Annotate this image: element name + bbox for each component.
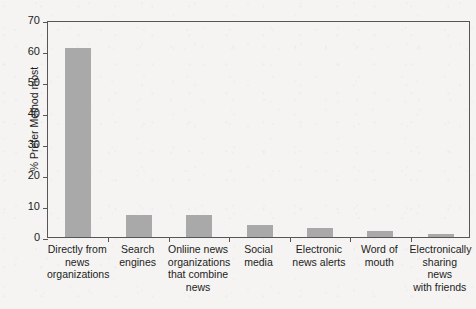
x-axis-label-line: media [244, 256, 273, 268]
x-axis-label-line: engines [119, 256, 156, 268]
x-axis-label-line: Electronically [410, 243, 472, 255]
y-axis-tick-label: 70 [18, 15, 40, 26]
x-axis-tick-label: Electronicnews alerts [289, 243, 349, 268]
y-axis-tick [43, 115, 48, 116]
x-axis-tick-label: Electronicallysharing newswith friends [410, 243, 470, 293]
x-axis-label-line: mouth [365, 256, 394, 268]
y-axis-tick-label: 40 [18, 108, 40, 119]
x-axis-label-line: Directly from [48, 243, 107, 255]
bar [247, 225, 273, 237]
x-axis-label-line: organizations [168, 256, 230, 268]
x-axis-tick [411, 237, 412, 242]
x-axis-label-line: news [65, 256, 90, 268]
y-axis-tick-label: 20 [18, 170, 40, 181]
y-axis-tick-labels: 010203040506070 [16, 0, 40, 309]
bar [367, 231, 393, 237]
y-axis-tick [43, 177, 48, 178]
x-axis-tick [108, 237, 109, 242]
x-axis-tick [229, 237, 230, 242]
x-axis-label-line: news [186, 281, 211, 293]
x-axis-tick-label: Socialmedia [228, 243, 288, 268]
y-axis-tick-label: 50 [18, 77, 40, 88]
y-axis-tick [43, 146, 48, 147]
plot-area [47, 21, 470, 238]
x-axis-label-line: that combine [168, 268, 228, 280]
bar [126, 215, 152, 237]
bar [186, 215, 212, 237]
x-axis-tick-label: Word ofmouth [349, 243, 409, 268]
y-axis-tick-label: 0 [18, 232, 40, 243]
x-axis-tick [169, 237, 170, 242]
bar [428, 234, 454, 237]
y-axis-tick-label: 10 [18, 201, 40, 212]
x-axis-label-line: Onliine news [168, 243, 228, 255]
x-axis-tick [290, 237, 291, 242]
y-axis-tick-label: 30 [18, 139, 40, 150]
x-axis-label-line: Search [121, 243, 154, 255]
x-axis-label-line: Word of [361, 243, 398, 255]
x-axis-tick-labels: Directly fromnewsorganizationsSearchengi… [47, 243, 470, 309]
x-axis-label-line: Electronic [296, 243, 342, 255]
bar [65, 48, 91, 237]
x-axis-tick-label: Directly fromnewsorganizations [47, 243, 107, 281]
x-axis-label-line: news alerts [292, 256, 345, 268]
x-axis-tick-label: Searchengines [107, 243, 167, 268]
bar-chart: % Prefer Method most 010203040506070 Dir… [0, 0, 476, 309]
x-axis-tick-label: Onliine newsorganizationsthat combinenew… [168, 243, 228, 293]
y-axis-tick [43, 53, 48, 54]
bar [307, 228, 333, 237]
y-axis-tick [43, 84, 48, 85]
x-axis-label-line: with friends [413, 281, 466, 293]
x-axis-label-line: organizations [47, 268, 109, 280]
x-axis-label-line: sharing news [423, 256, 457, 281]
x-axis-label-line: Social [244, 243, 273, 255]
y-axis-tick [43, 22, 48, 23]
y-axis-tick-label: 60 [18, 46, 40, 57]
y-axis-tick [43, 208, 48, 209]
y-axis-tick [43, 239, 48, 240]
x-axis-tick [350, 237, 351, 242]
